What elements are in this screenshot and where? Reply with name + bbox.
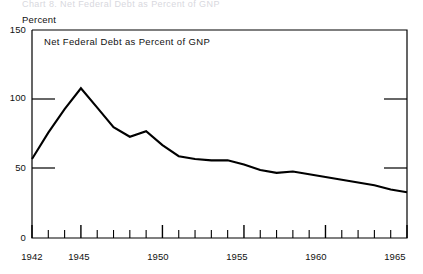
plot-area [0,0,423,274]
chart-figure: Chart 8. Net Federal Debt as Percent of … [0,0,423,274]
axis-frame [32,30,407,238]
x-tick-marks [32,225,407,238]
data-series-line [32,88,407,192]
y-inner-ticks-left [32,99,55,168]
y-inner-ticks-right [384,99,407,168]
